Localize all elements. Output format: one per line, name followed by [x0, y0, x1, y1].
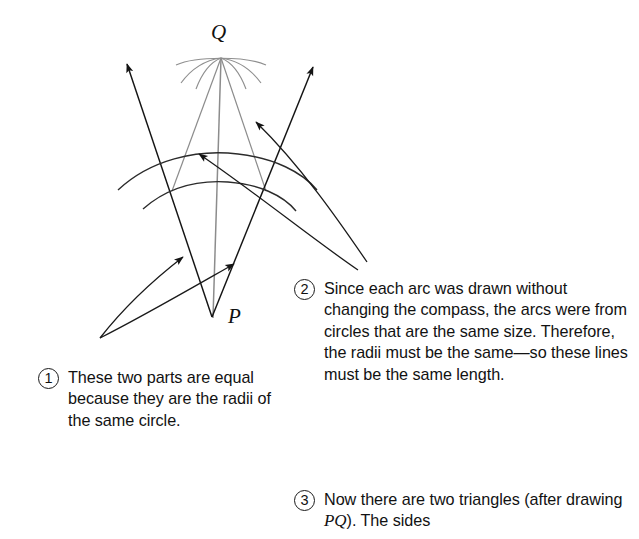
callout-1-number: 1	[38, 368, 59, 389]
point-label-q: Q	[211, 22, 226, 43]
point-label-p: P	[228, 306, 241, 327]
callout-1-text: These two parts are equal because they a…	[68, 367, 288, 431]
callout-3-segment-pq: PQ	[324, 511, 347, 530]
callout-3-number: 3	[294, 490, 315, 511]
callout-2-number: 2	[294, 279, 315, 300]
callout-3-text-after: ). The sides	[347, 511, 431, 529]
geometry-diagram	[0, 0, 639, 539]
figure-page: Q P 1 These two parts are equal because …	[0, 0, 639, 539]
callout-3: 3 Now there are two triangles (after dra…	[294, 489, 630, 532]
callout-3-text-before: Now there are two triangles (after drawi…	[324, 490, 622, 508]
callout-2: 2 Since each arc was drawn without chang…	[294, 278, 630, 385]
segment-pq	[213, 58, 221, 318]
callout-3-text: Now there are two triangles (after drawi…	[324, 489, 630, 532]
callout-1: 1 These two parts are equal because they…	[38, 367, 288, 431]
callout-2-text: Since each arc was drawn without changin…	[324, 278, 630, 385]
leader-arrows-callout-2	[199, 122, 367, 270]
